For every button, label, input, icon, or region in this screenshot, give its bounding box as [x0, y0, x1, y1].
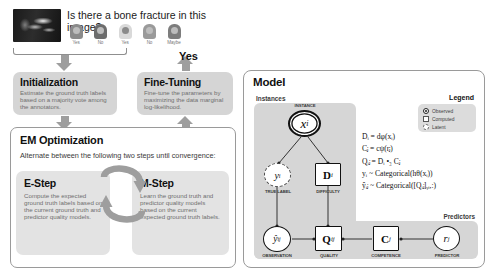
equation-competence: Cⱼ = cψ(rⱼ) [362, 143, 436, 155]
question-card: Is there a bone fracture in this image? … [13, 9, 227, 51]
e-step-title: E-Step [24, 177, 56, 189]
node-subscript: j [448, 235, 450, 242]
yes-output-label: Yes [179, 50, 198, 62]
equation-observation: ŷᵢⱼ ~ Categorical([Qᵢⱼ]ᵧᵢ,:) [362, 180, 436, 192]
xray-image [13, 9, 61, 42]
node-subscript: i [306, 119, 308, 128]
annotator-row: Yes No Yes No Maybe [67, 24, 183, 45]
e-step-body: Compute the expected ground truth labels… [24, 193, 104, 221]
node-subscript: ij [331, 235, 335, 242]
initialization-body: Estimate the ground truth labels based o… [20, 90, 112, 110]
grouping-bracket [13, 48, 127, 55]
initialization-box: Initialization Estimate the ground truth… [13, 72, 117, 115]
annotator-answer: No [92, 40, 110, 45]
node-symbol: Q [322, 233, 331, 245]
em-cycle-arrows [100, 155, 146, 233]
person-icon [143, 24, 156, 39]
node-label-quality: QUALITY [304, 253, 354, 258]
node-difficulty-d: Di [315, 163, 341, 186]
arrow-down-to-initialization [56, 55, 73, 71]
node-competence-c: Cj [373, 226, 399, 251]
annotator-5: Maybe [165, 24, 183, 45]
node-label-competence: COMPETENCE [360, 253, 412, 258]
annotator-3: Yes [116, 24, 134, 45]
node-label-instance: INSTANCE [278, 103, 332, 108]
equation-true-label: yᵢ ~ Categorical(hθ(xᵢ)) [362, 168, 436, 180]
node-subscript: i [331, 171, 333, 178]
fine-tuning-title: Fine-Tuning [144, 76, 201, 88]
node-observation-yhat: ŷij [263, 226, 291, 252]
annotator-answer: No [141, 40, 159, 45]
node-true-label-y: yi [264, 163, 291, 187]
annotator-answer: Maybe [165, 40, 183, 45]
node-instance-x: xi [288, 110, 321, 137]
equation-difficulty: Dᵢ = dφ(xᵢ) [362, 131, 436, 143]
initialization-title: Initialization [20, 76, 78, 88]
node-label-predictor: PREDICTOR [421, 253, 473, 258]
annotator-1: Yes [67, 24, 85, 45]
m-step-body: Learn the ground truth and predictor qua… [140, 193, 223, 221]
annotator-answer: Yes [67, 40, 85, 45]
node-label-difficulty: DIFFICULTY [302, 189, 354, 194]
annotator-answer: Yes [116, 40, 134, 45]
equation-quality: Qᵢⱼ = Dᵢ •₃ Cⱼ [362, 156, 436, 168]
fine-tuning-box: Fine-Tuning Fine-tune the parameters by … [137, 72, 233, 115]
model-panel: Model Instances Predictors Legend Observ… [243, 70, 485, 268]
e-step-box: E-Step Compute the expected ground truth… [16, 171, 110, 255]
em-title: EM Optimization [20, 134, 103, 146]
node-label-true-label: TRUE LABEL [252, 189, 304, 194]
annotator-4: No [141, 24, 159, 45]
node-symbol: D [323, 169, 331, 181]
node-predictor-r: rj [433, 226, 460, 251]
node-subscript: ij [277, 236, 280, 242]
model-equations: Dᵢ = dφ(xᵢ) Cⱼ = cψ(rⱼ) Qᵢⱼ = Dᵢ •₃ Cⱼ y… [362, 131, 436, 192]
m-step-box: M-Step Learn the ground truth and predic… [132, 171, 229, 255]
person-icon [94, 24, 107, 39]
node-subscript: j [389, 235, 391, 242]
node-label-observation: OBSERVATION [251, 253, 303, 258]
node-symbol: C [381, 233, 389, 245]
diagram-canvas: Is there a bone fracture in this image? … [0, 0, 490, 279]
person-icon [70, 24, 83, 39]
person-icon [168, 24, 181, 39]
person-icon [119, 24, 132, 39]
annotator-2: No [92, 24, 110, 45]
fine-tuning-body: Fine-tune the parameters by maximizing t… [144, 90, 228, 110]
node-quality-q: Qij [315, 226, 342, 251]
node-subscript: i [279, 172, 281, 179]
